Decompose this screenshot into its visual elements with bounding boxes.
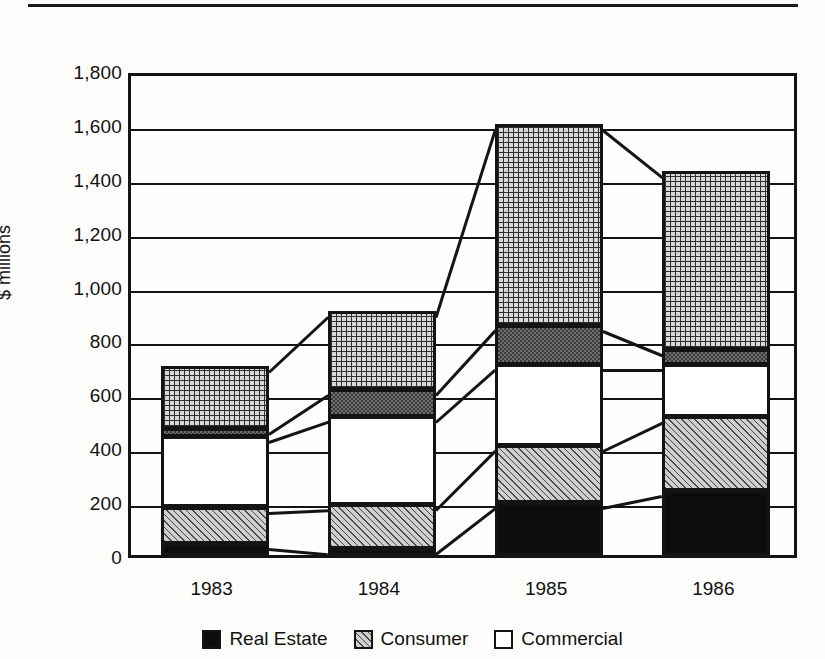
y-tick-label: 600 (32, 386, 122, 405)
bar-segment-1985-other-dark-band (495, 325, 603, 365)
y-tick-label: 1,800 (32, 63, 122, 82)
connector-line (435, 369, 496, 424)
y-tick-label: 0 (32, 548, 122, 567)
legend-label: Real Estate (229, 628, 327, 650)
y-tick-label: 1,600 (32, 117, 122, 136)
bar-segment-1983-consumer (161, 507, 269, 544)
bar-segment-1985-other-grid (495, 124, 603, 326)
chart-legend: Real EstateConsumerCommercial (0, 628, 825, 650)
bar-segment-1986-consumer (662, 416, 770, 491)
x-tick-label-1986: 1986 (643, 578, 783, 600)
connector-line (602, 129, 663, 178)
y-tick-label: 1,200 (32, 225, 122, 244)
bar-segment-1983-other-grid (161, 366, 269, 429)
x-tick-label-1984: 1984 (309, 578, 449, 600)
chart-plot-area (128, 73, 797, 558)
bar-segment-1984-commercial (328, 416, 436, 505)
connector-line (435, 450, 496, 511)
connector-line (603, 495, 663, 510)
bar-segment-1986-other-dark-band (662, 349, 770, 365)
bar-segment-1985-real-estate (495, 502, 603, 556)
bar-segment-1986-real-estate (662, 490, 770, 556)
legend-label: Consumer (381, 628, 469, 650)
bar-1983 (161, 70, 269, 555)
connector-line (269, 509, 328, 515)
bar-segment-1984-other-grid (328, 311, 436, 390)
bar-segment-1984-other-dark-band (328, 389, 436, 417)
connector-line (435, 508, 496, 556)
legend-swatch-icon (354, 630, 373, 649)
bar-segment-1983-real-estate (161, 543, 269, 556)
legend-swatch-icon (494, 630, 513, 649)
y-tick-label: 200 (32, 494, 122, 513)
connector-line (268, 548, 328, 556)
connector-line (268, 421, 328, 444)
legend-swatch-icon (202, 630, 221, 649)
connector-line (602, 421, 663, 452)
bar-segment-1986-commercial (662, 364, 770, 418)
y-tick-label: 400 (32, 440, 122, 459)
x-tick-label-1985: 1985 (476, 578, 616, 600)
bar-segment-1984-real-estate (328, 548, 436, 556)
bar-1985 (495, 70, 603, 555)
y-tick-label: 1,000 (32, 279, 122, 298)
bar-1984 (328, 70, 436, 555)
bar-segment-1986-other-grid (662, 171, 770, 350)
connector-line (603, 369, 662, 372)
y-axis-title: $ millions (0, 225, 15, 300)
legend-item-commercial[interactable]: Commercial (494, 628, 622, 650)
connector-line (603, 330, 663, 357)
bar-segment-1984-consumer (328, 504, 436, 549)
legend-item-consumer[interactable]: Consumer (354, 628, 469, 650)
bar-segment-1983-commercial (161, 436, 269, 507)
bar-1986 (662, 70, 770, 555)
x-tick-label-1983: 1983 (142, 578, 282, 600)
bar-segment-1985-consumer (495, 445, 603, 504)
y-tick-label: 1,400 (32, 171, 122, 190)
connector-line (435, 330, 496, 397)
legend-item-real-estate[interactable]: Real Estate (202, 628, 327, 650)
y-tick-label: 800 (32, 332, 122, 351)
bar-segment-1985-commercial (495, 364, 603, 446)
page-top-rule (28, 4, 798, 7)
legend-label: Commercial (521, 628, 622, 650)
y-axis-tick-labels: 1,8001,6001,4001,2001,0008006004002000 (18, 0, 122, 659)
